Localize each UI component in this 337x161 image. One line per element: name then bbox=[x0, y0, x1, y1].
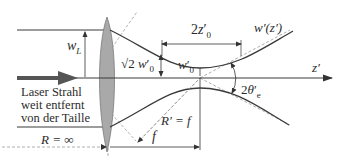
label-beam-function: w′(z′) bbox=[254, 20, 282, 36]
label-focal-length: f bbox=[152, 129, 156, 145]
label-axis-z: z′ bbox=[312, 60, 320, 76]
gaussian-beam-diagram: wL √2 w′0 w′0 2z′0 w′(z′) z′ 2θ′e R′ = f… bbox=[0, 0, 337, 161]
label-divergence-angle: 2θ′e bbox=[241, 82, 261, 100]
label-radius-in: R = ∞ bbox=[41, 132, 73, 148]
label-wL: wL bbox=[67, 38, 81, 56]
label-sqrt2-w0: √2 w′0 bbox=[121, 56, 154, 74]
label-rayleigh-range: 2z′0 bbox=[191, 22, 211, 40]
label-waist-w0: w′0 bbox=[178, 57, 194, 75]
caption-laser-beam: Laser Strahl weit entfernt von der Taill… bbox=[21, 86, 90, 125]
lens-icon bbox=[100, 17, 115, 152]
beam-envelope-bottom bbox=[110, 88, 289, 127]
label-radius-out: R′ = f bbox=[161, 113, 191, 129]
laser-direction-arrow-icon bbox=[17, 71, 78, 85]
